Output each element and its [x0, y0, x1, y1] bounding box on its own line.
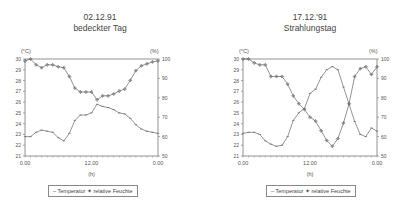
y-right-tick-label: 90 — [162, 75, 168, 81]
y-tick-label: 28 — [15, 78, 21, 84]
series-line-temperature — [243, 67, 377, 147]
y-tick-label: 22 — [15, 142, 21, 148]
y-tick-label: 24 — [233, 121, 239, 127]
legend-temp-label: Temperatur — [58, 188, 86, 194]
y-tick-label: 23 — [15, 131, 21, 137]
x-axis-unit: (h) — [307, 171, 314, 177]
y-tick-label: 25 — [233, 110, 239, 116]
y-axis-unit-right: (%) — [150, 48, 159, 54]
y-right-tick-label: 100 — [162, 56, 171, 62]
y-right-tick-label: 80 — [162, 95, 168, 101]
line-chart-2: 2122232425262728293050607080901000.0012.… — [200, 0, 400, 190]
y-axis-unit-right: (%) — [369, 48, 378, 54]
y-right-tick-label: 70 — [381, 114, 387, 120]
line-chart-1: 2122232425262728293050607080901000.0012.… — [0, 0, 200, 190]
legend-temp-icon: – — [53, 188, 56, 194]
y-tick-label: 22 — [233, 142, 239, 148]
y-tick-label: 24 — [15, 121, 21, 127]
x-tick-label: 12.00 — [85, 160, 99, 166]
legend-temp-icon: – — [271, 188, 274, 194]
y-tick-label: 25 — [15, 110, 21, 116]
y-tick-label: 21 — [233, 153, 239, 159]
series-line-temperature — [25, 104, 158, 141]
legend-1: – Temperatur ✦ relative Feuchte — [48, 185, 138, 197]
legend-hum-icon: ✦ — [87, 188, 92, 194]
chart-panel-1: 02.12.91 bedeckter Tag 21222324252627282… — [0, 0, 200, 216]
x-tick-label: 0.00 — [372, 160, 383, 166]
legend-2: – Temperatur ✦ relative Feuchte — [266, 185, 356, 197]
legend-hum-label: relative Feuchte — [93, 188, 132, 194]
y-right-tick-label: 70 — [162, 114, 168, 120]
legend-temp-label: Temperatur — [276, 188, 304, 194]
y-right-tick-label: 60 — [162, 134, 168, 140]
series-line-humidity — [243, 59, 377, 146]
y-right-tick-label: 100 — [381, 56, 390, 62]
y-tick-label: 26 — [233, 99, 239, 105]
x-tick-label: 0.00 — [153, 160, 164, 166]
y-tick-label: 23 — [233, 131, 239, 137]
legend-hum-icon: ✦ — [305, 188, 310, 194]
x-tick-label: 12.00 — [303, 160, 317, 166]
y-tick-label: 30 — [233, 56, 239, 62]
y-tick-label: 27 — [15, 88, 21, 94]
y-tick-label: 30 — [15, 56, 21, 62]
y-right-tick-label: 60 — [381, 134, 387, 140]
x-tick-label: 0.00 — [20, 160, 31, 166]
y-tick-label: 26 — [15, 99, 21, 105]
y-tick-label: 29 — [233, 67, 239, 73]
y-right-tick-label: 90 — [381, 75, 387, 81]
legend-hum-label: relative Feuchte — [311, 188, 350, 194]
x-axis-unit: (h) — [88, 171, 95, 177]
x-tick-label: 0.00 — [238, 160, 249, 166]
y-axis-unit-left: (°C) — [239, 48, 249, 54]
y-tick-label: 27 — [233, 88, 239, 94]
chart-panel-2: 17.12.'91 Strahlungstag 2122232425262728… — [200, 0, 400, 216]
y-axis-unit-left: (°C) — [21, 48, 31, 54]
y-tick-label: 29 — [15, 67, 21, 73]
y-right-tick-label: 80 — [381, 95, 387, 101]
y-tick-label: 28 — [233, 78, 239, 84]
y-tick-label: 21 — [15, 153, 21, 159]
y-right-tick-label: 50 — [381, 153, 387, 159]
y-right-tick-label: 50 — [162, 153, 168, 159]
